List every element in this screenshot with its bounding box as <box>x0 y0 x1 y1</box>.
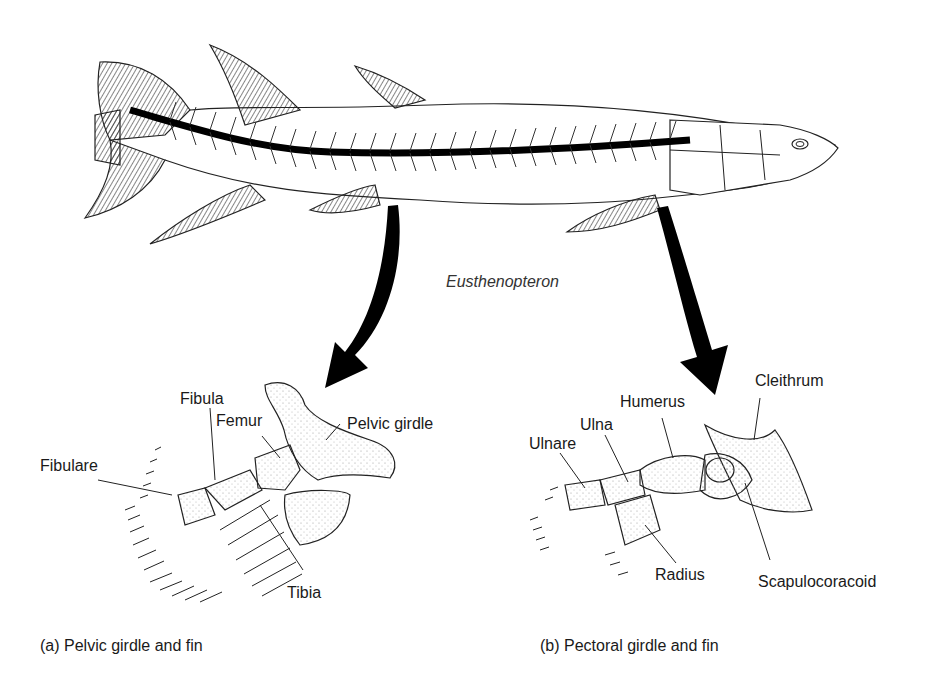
fibula-bone <box>205 470 262 510</box>
label-scapulocoracoid: Scapulocoracoid <box>758 573 876 591</box>
dorsal-fin-2 <box>355 66 425 108</box>
head <box>670 120 838 195</box>
humerus-bone <box>640 456 705 494</box>
label-pelvic-girdle: Pelvic girdle <box>347 415 433 433</box>
ulnare-bone <box>565 480 605 510</box>
label-fibula: Fibula <box>180 390 224 408</box>
caption-panel-b: (b) Pectoral girdle and fin <box>540 637 719 655</box>
tibia-plate <box>285 490 350 545</box>
radius-bone <box>615 495 660 545</box>
label-fibulare: Fibulare <box>40 457 98 475</box>
label-radius: Radius <box>655 566 705 584</box>
arrow-to-pectoral-detail <box>657 206 728 395</box>
fish-skeleton <box>85 45 838 244</box>
label-ulna: Ulna <box>580 416 613 434</box>
arrow-to-pelvic-detail <box>325 205 400 388</box>
label-ulnare: Ulnare <box>529 435 576 453</box>
anal-fin <box>150 185 265 244</box>
femur-bone <box>255 445 300 490</box>
pectoral-fin <box>567 195 660 232</box>
label-cleithrum: Cleithrum <box>755 372 823 390</box>
label-tibia: Tibia <box>287 584 321 602</box>
caption-panel-a: (a) Pelvic girdle and fin <box>40 637 203 655</box>
label-femur: Femur <box>216 412 262 430</box>
species-label: Eusthenopteron <box>446 273 559 291</box>
figure-eusthenopteron: Eusthenopteron Fibula Femur Pelvic girdl… <box>0 0 951 687</box>
pelvic-fin <box>310 185 380 213</box>
dorsal-fin-1 <box>210 45 300 125</box>
label-humerus: Humerus <box>620 393 685 411</box>
